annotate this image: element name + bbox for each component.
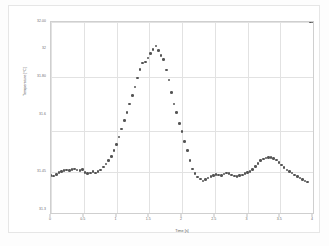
x-tick-label: 0	[49, 217, 51, 221]
screenshot-page: 32.003231.8031.631.4531.3 00.511.522.533…	[0, 0, 329, 246]
x-tick-label: 4	[311, 217, 313, 221]
data-point	[251, 168, 254, 171]
gridline-vertical	[182, 22, 183, 213]
data-point	[81, 168, 84, 171]
x-tick-label: 3	[246, 217, 248, 221]
data-point	[131, 94, 134, 97]
data-point	[157, 49, 160, 52]
x-tick-label: 1.5	[146, 217, 151, 221]
data-point	[178, 122, 181, 125]
data-point	[128, 103, 131, 106]
data-point	[186, 149, 189, 152]
gridline-vertical	[215, 22, 216, 213]
data-point	[113, 149, 116, 152]
data-point	[160, 54, 163, 57]
y-tick-label: 32	[42, 46, 46, 50]
x-tick-label: 1	[115, 217, 117, 221]
gridline-horizontal	[51, 213, 313, 214]
x-tick-label: 3.5	[277, 217, 282, 221]
data-point	[136, 77, 139, 80]
data-point	[155, 45, 158, 48]
y-axis-label: Temperature [°C]	[23, 67, 27, 96]
data-point	[99, 169, 102, 172]
data-point	[126, 111, 129, 114]
data-point	[168, 79, 171, 82]
x-tick-label: 0.5	[80, 217, 85, 221]
data-point	[102, 166, 105, 169]
data-point	[144, 61, 147, 64]
gridline-vertical	[51, 22, 52, 213]
data-point	[257, 162, 260, 165]
y-axis-ticks: 32.003231.8031.631.4531.3	[9, 21, 48, 214]
data-point	[283, 166, 286, 169]
data-point	[175, 111, 178, 114]
gridline-vertical	[248, 22, 249, 213]
y-tick-label: 31.45	[37, 169, 46, 173]
x-axis-ticks: 00.511.522.533.54	[50, 217, 314, 226]
data-point	[162, 58, 165, 61]
y-tick-label: 31.3	[39, 207, 46, 211]
data-point	[170, 91, 173, 94]
data-point	[120, 128, 123, 131]
plot-area	[50, 21, 314, 214]
figure-card: 32.003231.8031.631.4531.3 00.511.522.533…	[8, 5, 320, 233]
data-point	[123, 119, 126, 122]
data-point	[115, 143, 118, 146]
data-point	[189, 159, 192, 162]
y-tick-label: 31.6	[39, 112, 46, 116]
data-point	[110, 155, 113, 158]
y-tick-label: 32.00	[37, 19, 46, 23]
data-point	[118, 136, 121, 139]
data-point	[105, 163, 108, 166]
gridline-vertical	[149, 22, 150, 213]
data-point	[165, 69, 168, 72]
data-point	[191, 168, 194, 171]
data-point	[312, 21, 314, 23]
data-point	[173, 103, 176, 106]
data-point	[107, 159, 110, 162]
data-point	[306, 181, 309, 184]
data-point	[134, 86, 137, 89]
data-point	[254, 165, 257, 168]
x-tick-label: 2	[180, 217, 182, 221]
y-tick-label: 31.80	[37, 74, 46, 78]
gridline-vertical	[84, 22, 85, 213]
x-tick-label: 2.5	[211, 217, 216, 221]
data-point	[139, 68, 142, 71]
data-point	[183, 140, 186, 143]
gridline-vertical	[313, 22, 314, 213]
x-axis-label: Time [s]	[50, 229, 314, 233]
data-point	[152, 48, 155, 51]
gridline-vertical	[280, 22, 281, 213]
data-point	[149, 52, 152, 55]
gridline-vertical	[117, 22, 118, 213]
